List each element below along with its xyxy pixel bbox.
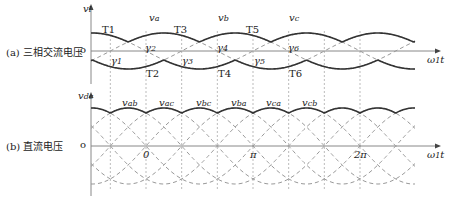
gamma-label: γ2 [145, 42, 156, 53]
gamma-label: γ1 [111, 55, 122, 66]
thyristor-label: T2 [146, 68, 159, 79]
line-voltage-label: vbc [196, 97, 211, 108]
panel-a-y-axis-label: vl [83, 3, 91, 14]
x-tick-label: π [250, 149, 257, 160]
line-voltage-label: vac [159, 97, 174, 108]
waveform-figure [0, 0, 449, 204]
x-axis-arrow-icon [435, 144, 441, 149]
line-voltage-label: vcb [302, 97, 317, 108]
panel-b-y-axis-label: vdc [78, 90, 93, 101]
line-voltage-label: vba [231, 97, 247, 108]
panel-b-origin: o [80, 139, 86, 150]
thyristor-label: T6 [289, 68, 302, 79]
phase-label: vc [289, 12, 299, 23]
panel-a-origin: o [80, 44, 86, 55]
x-tick-label: 2π [354, 149, 367, 160]
gamma-label: γ5 [254, 55, 265, 66]
thyristor-label: T4 [218, 68, 231, 79]
phase-label: va [149, 12, 159, 23]
thyristor-label: T3 [174, 24, 187, 35]
panel-b-x-axis-label: ω1t [427, 149, 444, 160]
thyristor-label: T5 [246, 24, 259, 35]
gamma-label: γ3 [182, 55, 193, 66]
line-voltage-label: vab [122, 97, 138, 108]
panel-a-label: (a) 三相交流电压 [6, 44, 83, 59]
thyristor-label: T1 [102, 24, 115, 35]
phase-label: vb [218, 12, 229, 23]
x-tick-label: 0 [143, 149, 149, 160]
panel-a-x-axis-label: ω1t [427, 54, 444, 65]
gamma-label: γ6 [288, 42, 299, 53]
gamma-label: γ4 [217, 42, 228, 53]
x-axis-arrow-icon [435, 49, 441, 54]
line-voltage-label: vca [266, 97, 281, 108]
panel-b-label: (b) 直流电压 [6, 138, 63, 153]
